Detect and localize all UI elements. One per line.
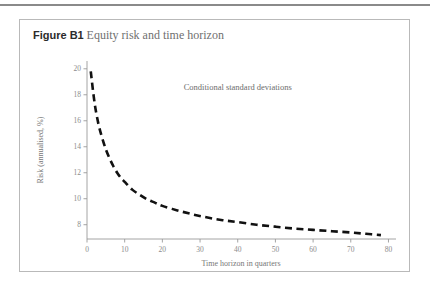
y-tick-label: 8 — [77, 220, 81, 229]
x-tick-label: 50 — [272, 245, 280, 254]
figure-container: Figure B1 Equity risk and time horizon 8… — [19, 19, 410, 272]
page-header-rule — [0, 4, 430, 6]
y-tick-label: 10 — [74, 194, 82, 203]
chart-annotation: Conditional standard deviations — [184, 82, 292, 92]
x-tick-label: 0 — [85, 245, 89, 254]
y-tick-label: 12 — [74, 168, 82, 177]
x-axis-ticks: 01020304050607080 — [85, 239, 392, 254]
x-tick-label: 80 — [385, 245, 393, 254]
x-tick-label: 10 — [121, 245, 129, 254]
x-tick-label: 20 — [159, 245, 167, 254]
y-tick-label: 16 — [74, 116, 82, 125]
series-line-conditional-standard-deviations — [91, 71, 381, 235]
x-tick-label: 40 — [234, 245, 242, 254]
y-axis-ticks: 8101214161820 — [74, 64, 88, 229]
y-axis-title: Risk (annualised, %) — [36, 116, 45, 183]
chart-plot-area: 8101214161820 01020304050607080 Risk (an… — [20, 20, 411, 273]
y-tick-label: 14 — [74, 142, 82, 151]
x-tick-label: 60 — [309, 245, 317, 254]
y-tick-label: 18 — [74, 90, 82, 99]
chart-svg: 8101214161820 01020304050607080 Risk (an… — [20, 20, 411, 273]
x-axis-title: Time horizon in quarters — [201, 259, 280, 268]
x-tick-label: 30 — [196, 245, 204, 254]
y-tick-label: 20 — [74, 64, 82, 73]
x-tick-label: 70 — [347, 245, 355, 254]
